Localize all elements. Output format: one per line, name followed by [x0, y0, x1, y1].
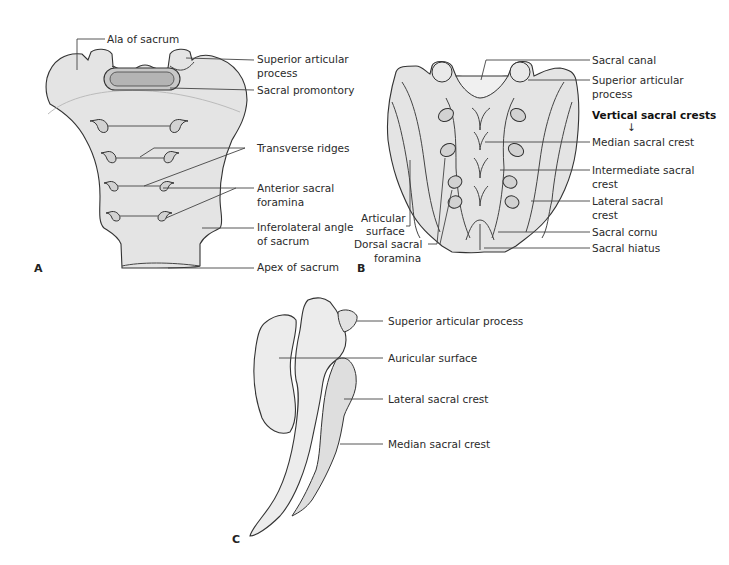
label-intermediate-crest-2: crest — [592, 178, 618, 191]
heading-vertical-sacral-crests: Vertical sacral crests — [592, 109, 716, 122]
label-inferolateral-angle-1: Inferolateral angle — [257, 221, 353, 234]
label-c-lateral-sacral-crest: Lateral sacral crest — [388, 393, 488, 406]
label-intermediate-crest-1: Intermediate sacral — [592, 164, 694, 177]
panel-letter-a: A — [34, 262, 43, 275]
label-sacral-canal: Sacral canal — [592, 54, 656, 67]
label-dorsal-foramina-1: Dorsal sacral — [354, 238, 422, 251]
label-lateral-crest-2: crest — [592, 209, 618, 222]
label-inferolateral-angle-2: of sacrum — [257, 235, 309, 248]
label-median-sacral-crest: Median sacral crest — [592, 136, 694, 149]
sacrum-lateral-drawing — [250, 298, 383, 536]
label-articular-surface-1: Articular — [361, 212, 406, 225]
sacrum-posterior-drawing — [387, 60, 590, 253]
label-b-superior-articular-1: Superior articular — [592, 74, 684, 87]
label-articular-surface-2: surface — [366, 225, 405, 238]
label-a-superior-articular-2: process — [257, 67, 297, 80]
label-transverse-ridges: Transverse ridges — [257, 142, 350, 155]
label-apex-of-sacrum: Apex of sacrum — [257, 261, 339, 274]
label-anterior-foramina-2: foramina — [257, 196, 304, 209]
label-ala-of-sacrum: Ala of sacrum — [107, 33, 179, 46]
label-c-superior-articular-process: Superior articular process — [388, 315, 523, 328]
label-dorsal-foramina-2: foramina — [374, 252, 421, 265]
label-auricular-surface: Auricular surface — [388, 352, 477, 365]
label-lateral-crest-1: Lateral sacral — [592, 195, 663, 208]
panel-letter-c: C — [232, 533, 240, 546]
label-a-superior-articular-1: Superior articular — [257, 53, 349, 66]
label-b-superior-articular-2: process — [592, 88, 632, 101]
arrow-down-icon: ↓ — [627, 121, 636, 134]
label-sacral-hiatus: Sacral hiatus — [592, 242, 660, 255]
label-c-median-sacral-crest: Median sacral crest — [388, 438, 490, 451]
label-anterior-foramina-1: Anterior sacral — [257, 182, 334, 195]
panel-letter-b: B — [357, 262, 365, 275]
label-sacral-promontory: Sacral promontory — [257, 84, 354, 97]
sacrum-anterior-drawing — [46, 39, 254, 268]
label-sacral-cornu: Sacral cornu — [592, 226, 658, 239]
